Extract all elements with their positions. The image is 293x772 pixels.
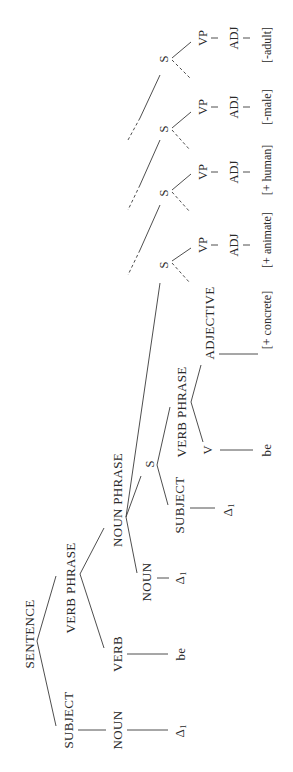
edge-chain1-vp (172, 248, 191, 261)
feature-human: [+ human] (261, 145, 273, 195)
edge-chain2-to-3 (140, 140, 160, 185)
node-np-noun: NOUN (140, 563, 153, 602)
syntax-tree-diagram: SENTENCE SUBJECT NOUN Δ1 VERB PHRASE VER… (0, 0, 293, 772)
edge-chain3-to-4 (140, 75, 160, 118)
node-subject-noun: NOUN (111, 711, 124, 750)
node-verb-phrase: VERB PHRASE (64, 542, 77, 633)
feature-male: [-male] (261, 89, 273, 124)
edge-chain3-dashed (172, 130, 190, 150)
node-chain2-s: S (158, 190, 171, 197)
node-adjective: ADJECTIVE (203, 287, 216, 360)
edge-vp-verb (80, 574, 104, 648)
edge-chain1-to-2-dashed (128, 250, 140, 275)
node-chain1-adj: ADJ (228, 234, 241, 257)
edge-chain2-dashed (172, 192, 190, 212)
edge-np-s (126, 476, 141, 517)
terminal-v-be: be (260, 444, 273, 457)
node-chain3-adj: ADJ (228, 96, 241, 119)
node-noun-phrase: NOUN PHRASE (111, 453, 124, 547)
terminal-be: be (174, 648, 187, 661)
terminal-np-delta: Δ1 (173, 572, 188, 585)
edge-s-vp (157, 407, 170, 465)
tree-edges (0, 0, 293, 772)
edge-sentence-subject (37, 641, 56, 726)
node-embedded-verb-phrase: VERB PHRASE (175, 366, 188, 457)
node-chain2-vp: VP (197, 164, 210, 180)
node-chain4-adj: ADJ (228, 27, 241, 50)
node-chain3-s: S (158, 126, 171, 133)
feature-animate: [+ animate] (261, 212, 273, 268)
node-sentence: SENTENCE (23, 600, 36, 669)
node-chain4-vp: VP (197, 30, 210, 46)
node-embedded-subject: SUBJECT (173, 476, 186, 533)
terminal-subject-delta: Δ1 (173, 725, 188, 738)
edge-np-chain-s (126, 283, 160, 517)
node-chain4-s: S (158, 56, 171, 63)
edge-chain1-to-2 (140, 205, 160, 250)
node-v: V (202, 445, 215, 454)
edge-chain3-to-4-dashed (128, 118, 140, 140)
edge-chain2-to-3-dashed (128, 185, 140, 210)
node-chain1-s: S (158, 262, 171, 269)
node-chain1-vp: VP (197, 237, 210, 253)
edge-vp-np (80, 528, 104, 574)
feature-concrete: [+ concrete] (261, 291, 273, 349)
edge-chain2-vp (172, 174, 191, 190)
node-chain2-adj: ADJ (228, 161, 241, 184)
feature-adult: [-adult] (261, 27, 273, 63)
node-chain3-vp: VP (197, 99, 210, 115)
node-subject: SUBJECT (62, 691, 75, 748)
edge-np-noun (126, 517, 137, 573)
node-verb: VERB (111, 636, 124, 672)
edge-chain1-dashed (172, 263, 190, 283)
edge-vp2-adjective (191, 365, 201, 402)
terminal-embedded-delta: Δ1 (221, 504, 236, 517)
edge-s-subject (157, 465, 168, 505)
edge-chain4-dashed (172, 60, 190, 78)
edge-chain4-vp (172, 42, 191, 58)
edge-sentence-vp (37, 576, 56, 641)
edge-vp2-v (191, 402, 203, 442)
node-embedded-s: S (144, 461, 157, 468)
edge-chain3-vp (172, 112, 191, 128)
